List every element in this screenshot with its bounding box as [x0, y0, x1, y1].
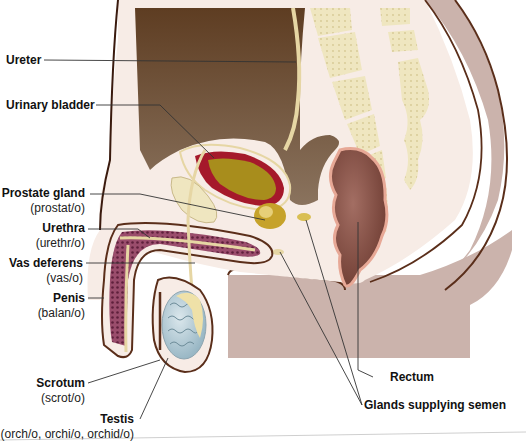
label-penis: Penis (balan/o) [38, 291, 85, 321]
label-term: Glands supplying semen [364, 398, 506, 413]
leader-scrotum [88, 360, 160, 383]
label-urinary-bladder: Urinary bladder [6, 98, 95, 113]
label-prostate-gland: Prostate gland (prostat/o) [2, 186, 85, 216]
label-term: Rectum [390, 370, 434, 385]
label-word-root: (scrot/o) [36, 391, 85, 406]
label-vas-deferens: Vas deferens (vas/o) [9, 256, 83, 286]
label-term: Urethra [36, 221, 85, 236]
label-word-root: (vas/o) [9, 271, 83, 286]
leader-testis [140, 358, 168, 419]
label-term: Urinary bladder [6, 98, 95, 113]
label-term: Scrotum [36, 376, 85, 391]
label-testis: Testis (orch/o, orchi/o, orchid/o) [1, 412, 134, 442]
label-term: Ureter [6, 53, 41, 68]
label-word-root: (urethr/o) [36, 236, 85, 251]
label-term: Prostate gland [2, 186, 85, 201]
label-glands-supplying-semen: Glands supplying semen [364, 398, 506, 413]
label-ureter: Ureter [6, 53, 41, 68]
label-word-root: (balan/o) [38, 306, 85, 321]
label-term: Vas deferens [9, 256, 83, 271]
label-word-root: (prostat/o) [2, 201, 85, 216]
scrotum [153, 278, 213, 372]
label-term: Testis [1, 412, 134, 427]
label-urethra: Urethra (urethr/o) [36, 221, 85, 251]
label-term: Penis [38, 291, 85, 306]
label-scrotum: Scrotum (scrot/o) [36, 376, 85, 406]
label-rectum: Rectum [390, 370, 434, 385]
label-word-root: (orch/o, orchi/o, orchid/o) [1, 427, 134, 442]
